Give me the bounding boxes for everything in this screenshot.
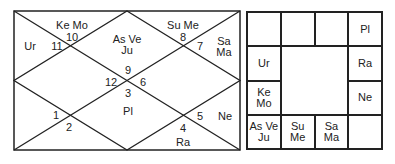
south-cell-r4c3: Sa Ma [315,115,349,149]
south-cell-r1c1 [247,12,281,46]
south-cell-r1c4: Pl [348,12,382,46]
house-7-planets-line2: Ma [216,47,231,58]
house-12-sign: 12 [105,77,117,88]
south-chart-center [281,46,349,115]
south-cell-r1c3 [315,12,349,46]
south-indian-chart: Pl Ur Ra Ke Mo Ne As Ve Ju Su Me Sa Ma [246,11,383,150]
house-8-planets: Su Me [167,20,199,31]
south-cell-r4c2: Su Me [281,115,315,149]
house-10-sign: 10 [66,32,78,43]
south-cell-r4c1: As Ve Ju [247,115,281,149]
house-1-sign: 1 [53,110,59,121]
south-cell-r1c2 [281,12,315,46]
house-9-planets-line2: Ju [121,45,133,56]
house-7-sign: 7 [197,41,203,52]
house-9-sign: 9 [125,65,131,76]
south-cell-r2c1: Ur [247,46,281,80]
south-cell-r4c1-line2: Ju [258,132,270,143]
south-cell-r3c1: Ke Mo [247,81,281,115]
house-8-sign: 8 [180,32,186,43]
house-2-sign: 2 [66,122,72,133]
house-10-planets: Ke Mo [56,20,88,31]
south-cell-r2c4: Ra [348,46,382,80]
house-4-planets: Ra [176,137,190,148]
house-4-sign: 4 [180,123,186,134]
house-11-sign: 11 [51,41,62,52]
house-11-planets: Ur [24,41,36,52]
south-cell-r4c4 [348,115,382,149]
south-cell-r3c4: Ne [348,81,382,115]
house-3-planets: Pl [123,106,133,117]
house-3-sign: 3 [125,88,131,99]
house-5-sign: 5 [197,111,203,122]
house-6-sign: 6 [140,77,146,88]
house-5-planets: Ne [218,111,232,122]
